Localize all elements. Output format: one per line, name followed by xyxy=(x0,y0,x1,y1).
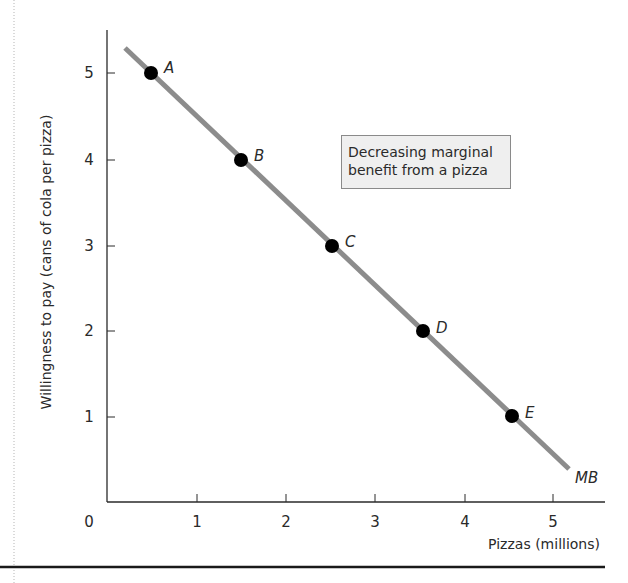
callout-box: Decreasing marginal benefit from a pizza xyxy=(341,135,511,189)
x-tick-label: 3 xyxy=(370,513,380,531)
y-tick-labels: 1 2 3 4 5 xyxy=(84,64,94,426)
x-tick-label: 5 xyxy=(548,513,558,531)
y-axis-title: Willingness to pay (cans of cola per piz… xyxy=(38,115,54,410)
mb-curve xyxy=(125,48,569,469)
x-ticks xyxy=(197,494,553,502)
y-ticks xyxy=(107,73,115,417)
point-label-c: C xyxy=(345,233,356,251)
point-d xyxy=(416,324,430,338)
x-axis-title: Pizzas (millions) xyxy=(488,536,600,552)
y-tick-label: 5 xyxy=(84,64,94,82)
point-labels: A B C D E xyxy=(163,59,535,422)
point-label-e: E xyxy=(525,404,535,422)
y-tick-label: 2 xyxy=(84,322,94,340)
mb-label: MB xyxy=(575,469,598,487)
x-tick-labels: 0 1 2 3 4 5 xyxy=(84,513,558,531)
origin-label: 0 xyxy=(84,513,94,531)
point-label-b: B xyxy=(254,147,264,165)
mb-chart: 1 2 3 4 5 0 1 2 3 4 5 Pizzas (millions) … xyxy=(0,0,628,583)
y-tick-label: 3 xyxy=(84,237,94,255)
y-tick-label: 1 xyxy=(84,408,94,426)
point-e xyxy=(505,409,519,423)
x-tick-label: 1 xyxy=(192,513,202,531)
y-tick-label: 4 xyxy=(84,151,94,169)
x-tick-label: 2 xyxy=(281,513,291,531)
point-a xyxy=(144,66,158,80)
point-label-a: A xyxy=(163,59,174,77)
point-label-d: D xyxy=(436,319,448,337)
callout-line-1: Decreasing marginal xyxy=(348,143,510,161)
x-tick-label: 4 xyxy=(460,513,470,531)
point-b xyxy=(234,153,248,167)
point-c xyxy=(325,239,339,253)
callout-line-2: benefit from a pizza xyxy=(348,161,510,179)
